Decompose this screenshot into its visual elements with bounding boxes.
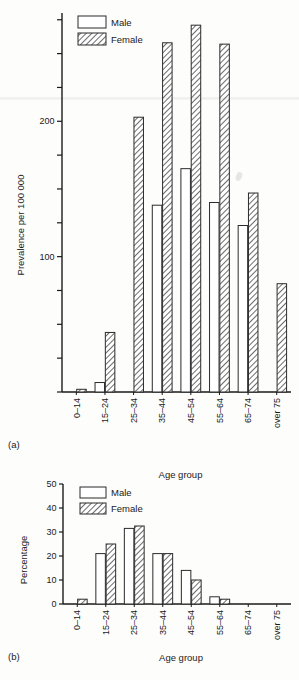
bar-female: [105, 332, 115, 392]
bar-female: [163, 43, 173, 392]
x-category-label: 25–34: [129, 610, 139, 635]
x-category-label: over 75: [272, 398, 282, 428]
bar-male: [238, 226, 248, 392]
y-tick-label: 100: [39, 252, 54, 262]
bar-female: [78, 599, 88, 604]
bar-female: [192, 580, 202, 604]
bar-male: [181, 570, 191, 604]
x-category-label: 35–44: [157, 398, 167, 423]
legend-label-male: Male: [111, 487, 132, 498]
y-tick-label: 40: [46, 503, 56, 513]
x-category-label: 15–24: [101, 610, 111, 635]
x-category-label: 45–54: [186, 398, 196, 423]
bar-female: [134, 117, 144, 392]
y-tick-label: 30: [46, 527, 56, 537]
legend-swatch-male: [80, 487, 106, 498]
legend-swatch-male: [78, 16, 106, 28]
bar-female: [220, 44, 230, 392]
bar-female: [220, 599, 230, 604]
bar-male: [96, 554, 106, 604]
x-axis-label: Age group: [159, 469, 203, 480]
y-tick-label: 10: [46, 575, 56, 585]
panel-label-a: (a): [8, 439, 20, 450]
x-category-label: 0–14: [72, 610, 82, 630]
chart-panel-a: 100200Prevalence per 100 000Age group(a)…: [8, 13, 291, 480]
bar-male: [210, 203, 220, 393]
two-panel-bar-chart: 100200Prevalence per 100 000Age group(a)…: [0, 0, 299, 680]
y-tick-label: 0: [51, 599, 56, 609]
chart-panel-b: 01020304050PercentageAge group(b)0–1415–…: [8, 479, 291, 663]
y-tick-label: 20: [46, 551, 56, 561]
bar-male: [124, 528, 134, 604]
figure-container: 100200Prevalence per 100 000Age group(a)…: [0, 0, 299, 680]
legend-label-female: Female: [111, 34, 143, 45]
x-category-label: 35–44: [158, 610, 168, 635]
x-category-label: 55–64: [215, 398, 225, 423]
bar-male: [210, 597, 220, 604]
bar-female: [191, 25, 201, 392]
x-category-label: 65–74: [243, 398, 253, 423]
panel-label-b: (b): [8, 651, 20, 662]
legend-swatch-female: [80, 503, 106, 514]
bar-female: [77, 389, 87, 392]
legend-label-male: Male: [111, 17, 132, 28]
y-tick-label: 200: [39, 116, 54, 126]
x-category-label: 25–34: [129, 398, 139, 423]
x-category-label: over 75: [272, 610, 282, 640]
y-axis-label: Prevalence per 100 000: [15, 175, 26, 276]
bar-male: [181, 169, 191, 392]
y-axis-label: Percentage: [18, 536, 29, 585]
y-tick-label: 50: [46, 479, 56, 489]
bar-male: [152, 205, 162, 392]
bar-female: [163, 554, 173, 604]
bar-male: [153, 554, 163, 604]
bar-female: [106, 544, 116, 604]
x-category-label: 65–74: [243, 610, 253, 635]
bar-female: [248, 193, 258, 392]
bar-female: [277, 284, 287, 392]
x-category-label: 0–14: [72, 398, 82, 418]
x-category-label: 45–54: [186, 610, 196, 635]
bar-male: [95, 383, 105, 392]
x-category-label: 15–24: [100, 398, 110, 423]
x-axis-label: Age group: [159, 652, 203, 663]
legend-label-female: Female: [111, 503, 143, 514]
x-category-label: 55–64: [215, 610, 225, 635]
bar-female: [135, 526, 145, 604]
legend-swatch-female: [78, 33, 106, 45]
